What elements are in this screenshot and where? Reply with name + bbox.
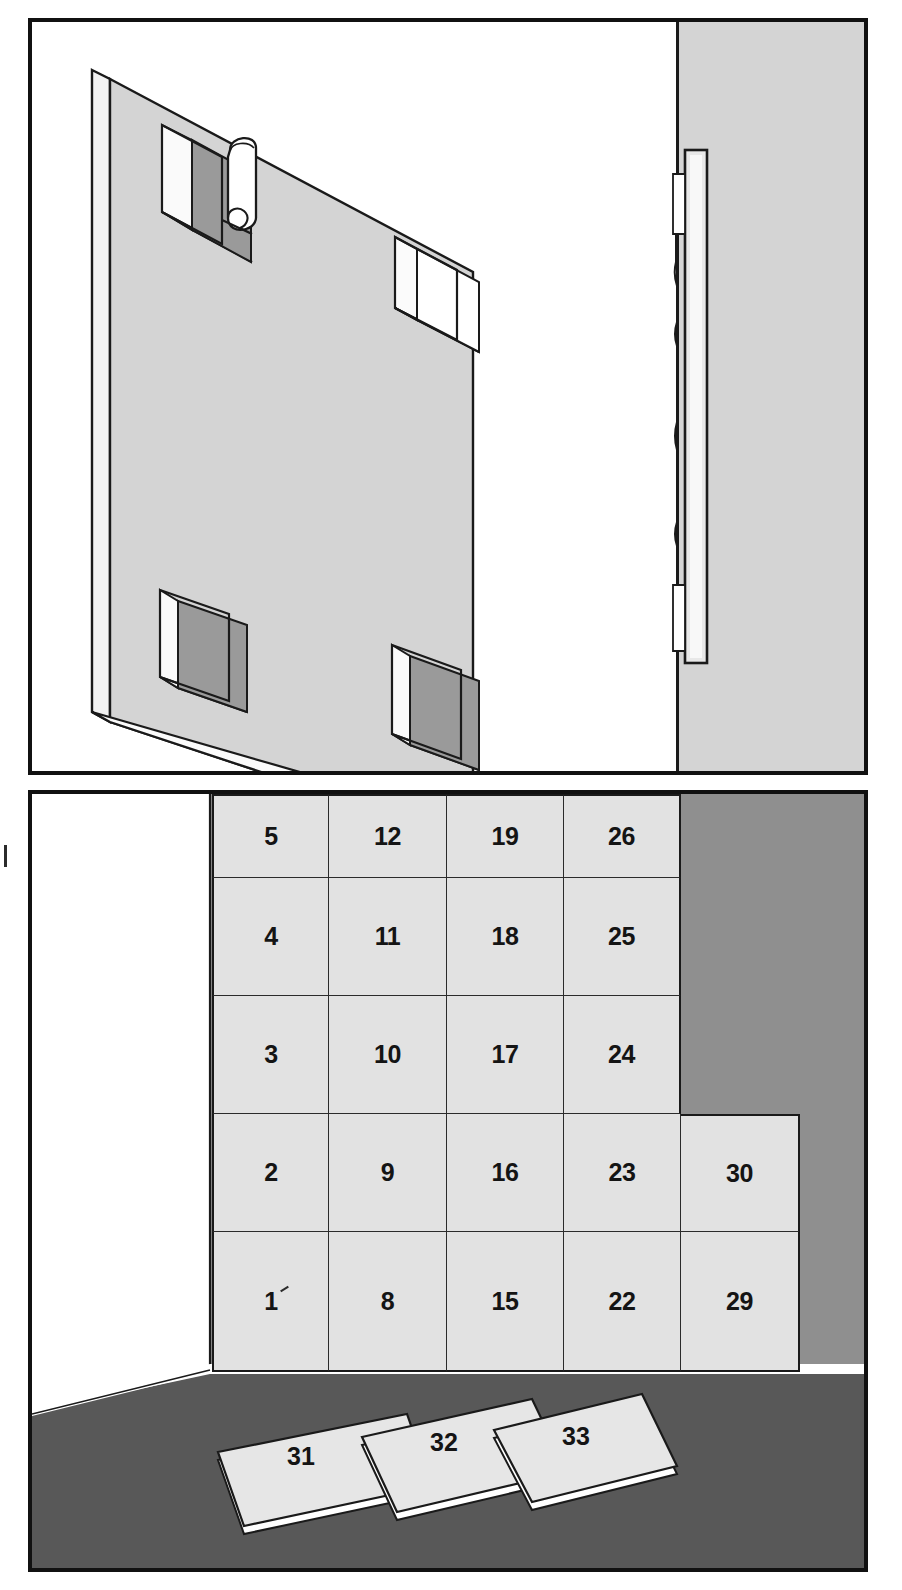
panel-isometric-drawing [32, 22, 864, 771]
floor-tiles-group [32, 794, 864, 1568]
section-panel-core [690, 155, 702, 658]
figure-top-frame [28, 18, 868, 775]
figure-top-canvas [32, 22, 864, 771]
hole-left-inner-wall [395, 237, 417, 320]
diagram-sheet: 5 12 19 26 4 11 18 25 3 10 17 24 2 9 16 … [0, 0, 902, 1590]
margin-callout-tick [4, 845, 7, 867]
cutout-lower-right-side-wall [392, 645, 410, 745]
side-section-view [673, 150, 707, 663]
rolled-tab-body [228, 138, 256, 230]
figure-bottom-frame: 5 12 19 26 4 11 18 25 3 10 17 24 2 9 16 … [28, 790, 868, 1572]
panel-left-edge-face [92, 70, 110, 722]
section-lower-notch [673, 585, 685, 651]
figure-bottom-canvas: 5 12 19 26 4 11 18 25 3 10 17 24 2 9 16 … [32, 794, 864, 1568]
cutout-lower-left-side-wall [160, 590, 178, 688]
section-wall-break-line [675, 234, 677, 585]
section-upper-notch [673, 174, 685, 234]
